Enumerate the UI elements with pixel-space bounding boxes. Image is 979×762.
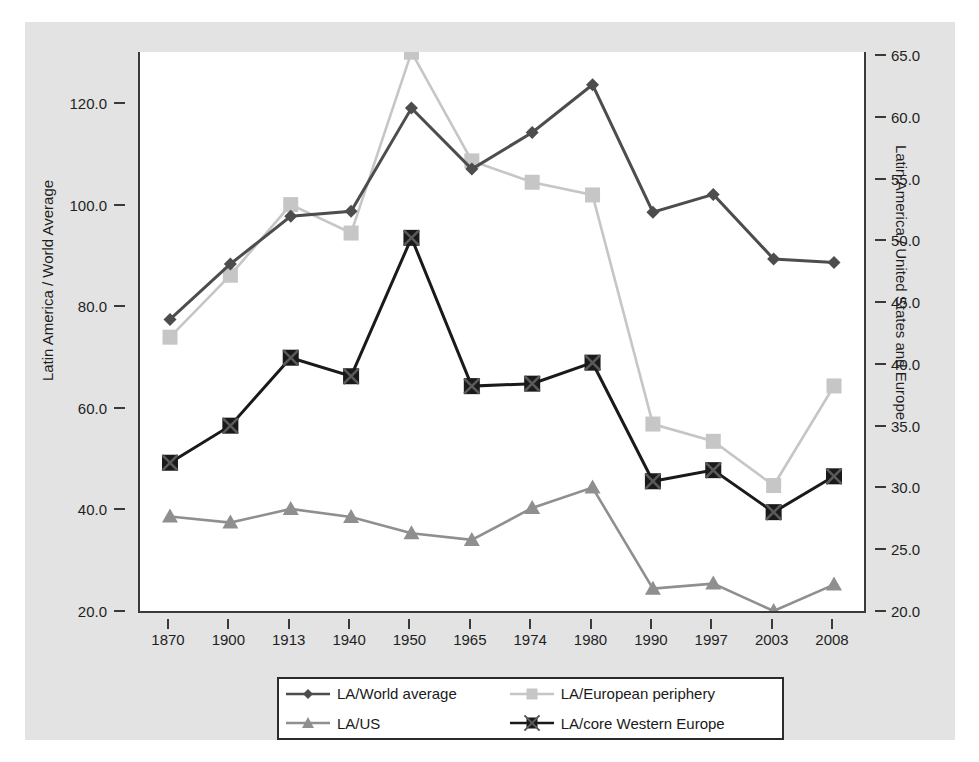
x-tick-label: 1950 (393, 631, 426, 648)
x-tick-mark (590, 619, 592, 629)
x-tick-label: 1965 (453, 631, 486, 648)
left-tick-mark (114, 508, 125, 510)
left-tick-mark (114, 407, 125, 409)
left-tick-label: 20.0 (78, 603, 107, 620)
legend-marker-triangle-icon (285, 715, 331, 731)
series-la-world-average (164, 78, 841, 326)
x-tick-label: 1980 (574, 631, 607, 648)
x-tick-mark (831, 619, 833, 629)
legend-label: LA/World average (337, 686, 457, 701)
right-tick-mark (875, 486, 886, 488)
x-tick-label: 1990 (634, 631, 667, 648)
chart-lines (140, 52, 864, 611)
x-tick-mark (710, 619, 712, 629)
x-tick-mark (167, 619, 169, 629)
right-tick-label: 25.0 (891, 541, 920, 558)
legend-label: LA/core Western Europe (561, 716, 725, 731)
x-tick-mark (650, 619, 652, 629)
x-tick-mark (408, 619, 410, 629)
x-tick-mark (288, 619, 290, 629)
x-tick-label: 2008 (815, 631, 848, 648)
right-tick-mark (875, 425, 886, 427)
legend-item-1: LA/European periphery (503, 679, 782, 709)
left-tick-mark (114, 102, 125, 104)
right-tick-label: 20.0 (891, 603, 920, 620)
x-tick-label: 1974 (513, 631, 546, 648)
x-tick-label: 1940 (332, 631, 365, 648)
series-la-us (162, 480, 842, 611)
right-tick-mark (875, 54, 886, 56)
legend-marker-square-icon (509, 686, 555, 702)
series-la-core-western-europe (162, 230, 842, 520)
left-tick-label: 40.0 (78, 501, 107, 518)
right-tick-mark (875, 116, 886, 118)
x-axis: 1870190019131940195019651974198019901997… (138, 619, 862, 645)
x-tick-label: 2003 (755, 631, 788, 648)
left-tick-label: 60.0 (78, 399, 107, 416)
x-tick-label: 1913 (272, 631, 305, 648)
x-tick-label: 1997 (695, 631, 728, 648)
right-tick-mark (875, 610, 886, 612)
left-tick-label: 80.0 (78, 298, 107, 315)
legend-item-3: LA/core Western Europe (503, 709, 782, 739)
right-tick-mark (875, 239, 886, 241)
left-tick-mark (114, 204, 125, 206)
x-tick-label: 1900 (212, 631, 245, 648)
right-axis-title: Latin America / United States and Europe (893, 83, 910, 483)
legend-item-0: LA/World average (279, 679, 503, 709)
left-tick-mark (114, 610, 125, 612)
left-tick-label: 100.0 (69, 196, 107, 213)
right-tick-mark (875, 178, 886, 180)
left-tick-mark (114, 305, 125, 307)
plot-area (138, 52, 866, 613)
right-tick-mark (875, 363, 886, 365)
x-tick-mark (469, 619, 471, 629)
x-tick-mark (771, 619, 773, 629)
x-tick-mark (227, 619, 229, 629)
legend-item-2: LA/US (279, 709, 503, 739)
legend-marker-diamond-icon (285, 686, 331, 702)
right-axis: 20.025.030.035.040.045.050.055.060.065.0 (875, 52, 955, 611)
series-la-european-periphery (163, 52, 842, 493)
figure-panel: 20.040.060.080.0100.0120.0 20.025.030.03… (25, 22, 955, 740)
x-tick-label: 1870 (151, 631, 184, 648)
left-axis-title: Latin America / World Average (39, 81, 56, 481)
legend-label: LA/European periphery (561, 686, 715, 701)
left-tick-label: 120.0 (69, 95, 107, 112)
x-tick-mark (529, 619, 531, 629)
legend-label: LA/US (337, 716, 380, 731)
right-tick-mark (875, 548, 886, 550)
right-tick-mark (875, 301, 886, 303)
legend-marker-x-square-icon (509, 715, 555, 731)
x-tick-mark (348, 619, 350, 629)
chart-legend: LA/World average LA/European periphery L… (277, 677, 784, 740)
right-tick-label: 65.0 (891, 47, 920, 64)
